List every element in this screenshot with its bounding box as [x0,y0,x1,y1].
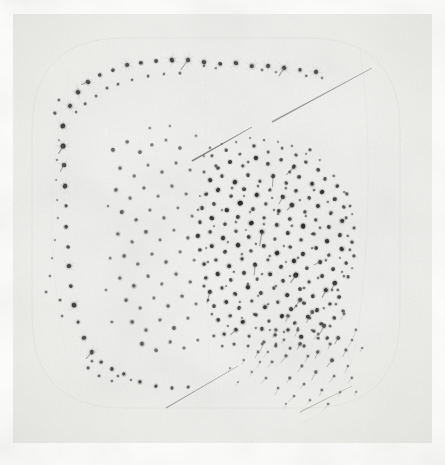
scanned-plate-figure: Autoradiograph plate scan [0,0,445,465]
plate-grain-texture [13,14,432,443]
plate-canvas [0,0,445,465]
